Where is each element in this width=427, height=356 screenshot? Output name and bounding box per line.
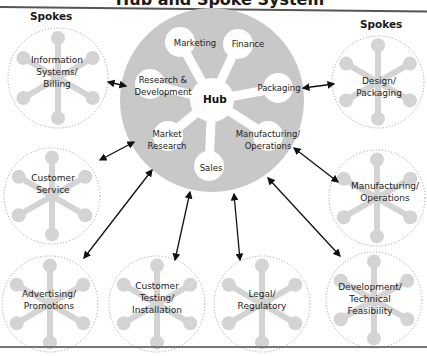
- spoke-node: [255, 259, 269, 273]
- spoke-node: [76, 316, 90, 330]
- connector-arrow-development-technical: [268, 178, 340, 256]
- hub-center-label: Hub: [203, 93, 227, 105]
- spoke-node: [10, 316, 24, 330]
- connector-arrow-legal: [234, 194, 240, 260]
- bottom-rule: [0, 346, 427, 348]
- hub-function-marketing: Marketing: [168, 37, 222, 49]
- connector-arrow-customer-service: [100, 142, 134, 160]
- spoke-node: [51, 111, 65, 125]
- spoke-node: [371, 112, 385, 126]
- hub-function-market-research: Market Research: [142, 128, 192, 152]
- spoke-node: [337, 210, 351, 224]
- spokes-heading-right: Spokes: [360, 18, 402, 30]
- spoke-node: [45, 227, 59, 241]
- spoke-node: [367, 331, 381, 345]
- hub-function-sales: Sales: [196, 162, 226, 174]
- spoke-label-design-packaging: Design/ Packaging: [334, 75, 424, 99]
- hub-function-manufacturing: Manufacturing/ Operations: [228, 128, 308, 152]
- spoke-label-legal: Legal/ Regulatory: [222, 288, 302, 312]
- hub-function-finance: Finance: [226, 38, 270, 50]
- spoke-node: [150, 259, 164, 273]
- spoke-node: [78, 208, 92, 222]
- connector-arrow-design-packaging: [303, 84, 334, 88]
- spoke-label-development-technical: Development/ Technical Feasibility: [320, 281, 420, 317]
- spoke-node: [370, 229, 384, 243]
- connector-arrow-customer-testing: [175, 192, 190, 260]
- spoke-node: [183, 316, 197, 330]
- spoke-wheel-customer-service: [4, 148, 100, 244]
- spoke-node: [16, 91, 30, 105]
- spoke-label-customer-service: Customer Service: [12, 172, 94, 196]
- hub-function-packaging: Packaging: [254, 82, 304, 94]
- connector-arrow-advertising: [84, 170, 152, 258]
- spoke-node: [371, 38, 385, 52]
- spoke-node: [403, 210, 417, 224]
- spoke-node: [117, 316, 131, 330]
- spoke-node: [51, 31, 65, 45]
- spoke-node: [403, 57, 417, 71]
- hub-and-spoke-diagram: Hub and Spoke System Spokes Spokes Hub M…: [0, 0, 427, 356]
- spoke-node: [367, 255, 381, 269]
- spoke-label-information-systems: Information Systems/ Billing: [12, 54, 102, 90]
- spoke-node: [288, 316, 302, 330]
- spoke-label-customer-testing: Customer Testing/ Installation: [112, 280, 202, 316]
- hub-function-research-development: Research & Development: [126, 74, 200, 98]
- spoke-label-advertising: Advertising/ Promotions: [4, 288, 94, 312]
- spokes-heading-left: Spokes: [30, 10, 72, 22]
- connector-arrow-manufacturing-operations: [294, 148, 338, 182]
- spoke-node: [86, 91, 100, 105]
- spoke-node: [222, 316, 236, 330]
- spoke-node: [45, 151, 59, 165]
- spoke-node: [43, 259, 57, 273]
- spoke-node: [339, 57, 353, 71]
- spoke-node: [370, 153, 384, 167]
- spoke-node: [12, 208, 26, 222]
- spoke-label-manufacturing-operations: Manufacturing/ Operations: [340, 180, 427, 204]
